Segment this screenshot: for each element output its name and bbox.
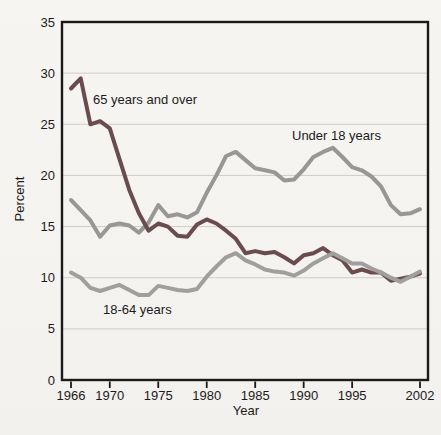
y-tick-label: 30: [41, 66, 55, 81]
series-line-18-64: [71, 253, 420, 295]
series-line-65-and-over: [71, 78, 420, 280]
y-tick-label: 10: [41, 270, 55, 285]
series-label-65-and-over: 65 years and over: [93, 92, 198, 107]
x-tick-label: 1990: [289, 388, 318, 403]
x-tick-label: 1985: [241, 388, 270, 403]
series-label-18-64: 18-64 years: [103, 302, 172, 317]
poverty-rates-by-age-chart: 19661970197519801985199019952002 0510152…: [0, 0, 441, 435]
y-tick-label: 0: [48, 373, 55, 388]
x-tick-label: 1975: [144, 388, 173, 403]
x-tick-label: 1966: [57, 388, 86, 403]
y-tick-label: 5: [48, 321, 55, 336]
gridlines: [63, 73, 427, 329]
x-tick-label: 1970: [95, 388, 124, 403]
y-axis-title: Percent: [12, 176, 27, 221]
plot-frame: [62, 22, 428, 380]
series-line-under-18: [71, 148, 420, 237]
y-tick-label: 15: [41, 219, 55, 234]
chart-canvas: 19661970197519801985199019952002 0510152…: [0, 0, 441, 435]
x-tick-label: 1995: [338, 388, 367, 403]
y-tick-label: 35: [41, 15, 55, 30]
x-tick-label: 2002: [406, 388, 435, 403]
series-label-under-18: Under 18 years: [292, 128, 381, 143]
series-lines: [71, 78, 420, 295]
x-tick-label: 1980: [192, 388, 221, 403]
x-axis-title: Year: [233, 403, 260, 418]
y-tick-labels: 05101520253035: [41, 15, 55, 388]
y-tick-label: 25: [41, 117, 55, 132]
x-tick-labels: 19661970197519801985199019952002: [57, 388, 435, 403]
y-tick-label: 20: [41, 168, 55, 183]
